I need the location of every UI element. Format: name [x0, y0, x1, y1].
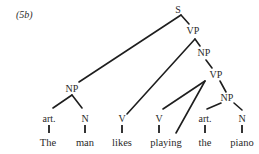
word-the: The — [40, 137, 57, 148]
edge-np-subject-art — [53, 95, 72, 108]
node-np-object: NP — [221, 92, 234, 103]
edge-np-subject-n — [72, 95, 82, 108]
node-s: S — [175, 4, 181, 15]
word-piano: piano — [230, 137, 253, 148]
word-playing: playing — [150, 137, 182, 148]
node-np-subject: NP — [66, 83, 79, 94]
node-np: NP — [198, 47, 211, 58]
edge-s-vp — [181, 15, 189, 24]
edge-vp2-np-object — [220, 81, 226, 92]
edge-np-object-n — [234, 103, 242, 110]
edge-vp2-v-playing — [163, 81, 205, 109]
syntax-tree-diagram: (5b) S VP NP — [0, 0, 259, 154]
node-art: art. — [42, 113, 55, 124]
word-the-2: the — [199, 137, 212, 148]
edge-vp-np — [195, 39, 200, 46]
node-v-playing: V — [155, 113, 163, 124]
tree-words: The man likes playing the piano — [40, 137, 254, 148]
edge-np-vp2 — [206, 60, 212, 68]
node-n: N — [81, 113, 88, 124]
node-vp: VP — [187, 25, 200, 36]
word-man: man — [76, 137, 95, 148]
edge-vp-v-likes — [127, 39, 195, 114]
edge-vp2-playing — [176, 81, 205, 133]
node-vp-lower: VP — [210, 69, 223, 80]
edge-np-object-art — [207, 103, 221, 109]
node-v-likes: V — [118, 113, 126, 124]
node-n-object: N — [238, 113, 245, 124]
figure-label: (5b) — [16, 9, 33, 21]
node-art-object: art. — [198, 113, 211, 124]
word-likes: likes — [112, 137, 132, 148]
